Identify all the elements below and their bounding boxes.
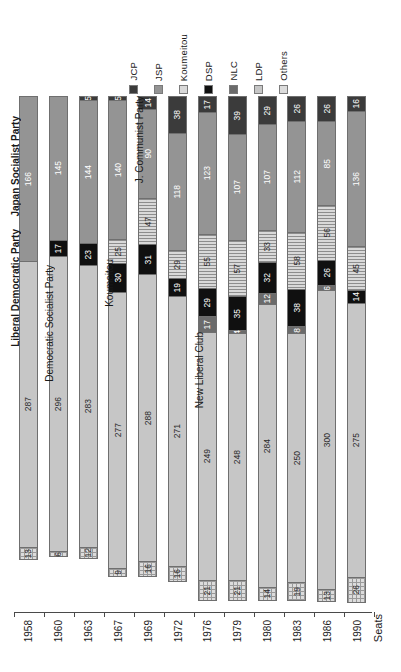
bar-segment-dsp-1983[interactable]: 38 — [287, 289, 306, 327]
year-label-1972[interactable]: 1972 — [163, 620, 193, 666]
bar-segment-dsp-1990[interactable]: 14 — [347, 290, 366, 304]
bar-segment-jsp-1972[interactable]: 118 — [168, 133, 187, 251]
bar-column-1990[interactable]: 16136451427526 — [342, 96, 372, 608]
bar-segment-koumeitou-1990[interactable]: 45 — [347, 246, 366, 291]
bar-segment-dsp-1972[interactable]: 19 — [168, 278, 187, 297]
bar-column-1979[interactable]: 391075735424821 — [223, 96, 253, 608]
bar-segment-dsp-1979[interactable]: 35 — [228, 296, 247, 331]
year-label-1960[interactable]: 1960 — [44, 620, 74, 666]
bar-segment-jsp-1963[interactable]: 144 — [79, 100, 98, 244]
legend-item-ldp[interactable]: LDP — [253, 62, 264, 94]
year-label-1958[interactable]: 1958 — [14, 620, 44, 666]
legend-item-jsp[interactable]: JSP — [153, 63, 164, 94]
bar-segment-dsp-1969[interactable]: 31 — [138, 244, 157, 275]
segment-value-label: 284 — [263, 439, 272, 453]
bar-segment-nlc-1976[interactable]: 17 — [198, 316, 217, 333]
bar-segment-jsp-1980[interactable]: 107 — [258, 124, 277, 231]
bar-segment-koumeitou-1979[interactable]: 57 — [228, 240, 247, 297]
bar-segment-jcp-1980[interactable]: 29 — [258, 96, 277, 125]
bar-segment-koumeitou-1969[interactable]: 47 — [138, 198, 157, 245]
segment-value-label: 249 — [203, 449, 212, 463]
year-label-1979[interactable]: 1979 — [223, 620, 253, 666]
segment-value-label: 16 — [173, 569, 182, 578]
bar-column-1967[interactable]: 514025302779 — [103, 96, 133, 608]
bar-segment-dsp-1960[interactable]: 17 — [49, 240, 68, 257]
bar-segment-koumeitou-1972[interactable]: 29 — [168, 250, 187, 279]
bar-segment-ldp-1979[interactable]: 248 — [228, 333, 247, 581]
bar-segment-dsp-1976[interactable]: 29 — [198, 288, 217, 317]
bar-stack-1990: 16136451427526 — [347, 96, 366, 608]
bar-segment-others-1972[interactable]: 16 — [168, 566, 187, 582]
bar-segment-jsp-1990[interactable]: 136 — [347, 111, 366, 247]
segment-value-label: 23 — [84, 250, 93, 259]
year-label-1980[interactable]: 1980 — [253, 620, 283, 666]
bar-column-1986[interactable]: 26855626630013 — [312, 96, 342, 608]
year-label-1967[interactable]: 1967 — [103, 620, 133, 666]
bar-segment-dsp-1980[interactable]: 32 — [258, 262, 277, 294]
bar-segment-dsp-1986[interactable]: 26 — [317, 260, 336, 286]
bar-column-1983[interactable]: 261125838825019 — [282, 96, 312, 608]
legend-item-nlc[interactable]: NLC — [228, 61, 239, 94]
bar-segment-ldp-1967[interactable]: 277 — [108, 292, 127, 569]
bar-column-1972[interactable]: 38118291927116 — [163, 96, 193, 608]
bar-segment-ldp-1986[interactable]: 300 — [317, 290, 336, 590]
bar-column-1980[interactable]: 2910733321228414 — [253, 96, 283, 608]
bar-segment-koumeitou-1976[interactable]: 55 — [198, 234, 217, 289]
bar-segment-jsp-1960[interactable]: 145 — [49, 96, 68, 241]
bar-segment-jcp-1990[interactable]: 16 — [347, 96, 366, 112]
bar-segment-others-1990[interactable]: 26 — [347, 577, 366, 603]
bar-segment-jsp-1976[interactable]: 123 — [198, 112, 217, 235]
segment-value-label: 107 — [233, 180, 242, 194]
bar-segment-jsp-1986[interactable]: 85 — [317, 121, 336, 206]
bar-stack-1963: 51442328312 — [79, 96, 98, 608]
legend-item-jcp[interactable]: JCP — [128, 62, 139, 94]
bar-segment-others-1980[interactable]: 14 — [258, 587, 277, 601]
year-label-1990[interactable]: 1990 — [342, 620, 372, 666]
segment-value-label: 248 — [233, 450, 242, 464]
bar-segment-ldp-1980[interactable]: 284 — [258, 304, 277, 588]
bar-segment-ldp-1983[interactable]: 250 — [287, 333, 306, 583]
bar-segment-jsp-1983[interactable]: 112 — [287, 121, 306, 233]
bar-segment-others-1983[interactable]: 19 — [287, 582, 306, 601]
bar-segment-koumeitou-1980[interactable]: 33 — [258, 230, 277, 263]
legend-item-dsp[interactable]: DSP — [203, 61, 214, 94]
year-label-1963[interactable]: 1963 — [74, 620, 104, 666]
chart-legend: JCPJSPKoumeitouDSPNLCLDPOthers — [128, 8, 328, 94]
legend-item-others[interactable]: Others — [278, 51, 289, 94]
bar-segment-jcp-1986[interactable]: 26 — [317, 96, 336, 122]
bar-segment-others-1960[interactable]: 6 — [49, 551, 68, 557]
bar-segment-others-1963[interactable]: 12 — [79, 547, 98, 559]
bar-segment-others-1986[interactable]: 13 — [317, 589, 336, 602]
bar-segment-jsp-1958[interactable]: 166 — [19, 96, 38, 262]
bar-segment-ldp-1963[interactable]: 283 — [79, 265, 98, 548]
bar-segment-jsp-1967[interactable]: 140 — [108, 100, 127, 240]
bar-segment-ldp-1969[interactable]: 288 — [138, 274, 157, 562]
axis-tick — [194, 612, 195, 617]
bar-segment-jcp-1983[interactable]: 26 — [287, 96, 306, 122]
bar-segment-others-1958[interactable]: 13 — [19, 547, 38, 560]
bar-stack-1979: 391075735424821 — [228, 96, 247, 608]
bar-segment-jsp-1979[interactable]: 107 — [228, 134, 247, 241]
bar-segment-others-1967[interactable]: 9 — [108, 568, 127, 577]
bar-segment-dsp-1963[interactable]: 23 — [79, 243, 98, 266]
segment-value-label: 45 — [352, 264, 361, 273]
bar-segment-jcp-1979[interactable]: 39 — [228, 96, 247, 135]
bar-segment-others-1976[interactable]: 21 — [198, 580, 217, 601]
year-label-1969[interactable]: 1969 — [133, 620, 163, 666]
bar-segment-koumeitou-1983[interactable]: 58 — [287, 232, 306, 290]
bar-segment-others-1969[interactable]: 16 — [138, 561, 157, 577]
year-label-1976[interactable]: 1976 — [193, 620, 223, 666]
bar-segment-others-1979[interactable]: 21 — [228, 580, 247, 601]
axis-tick — [344, 612, 345, 617]
bar-segment-jcp-1976[interactable]: 17 — [198, 96, 217, 113]
segment-value-label: 38 — [293, 303, 302, 312]
bar-segment-ldp-1958[interactable]: 287 — [19, 261, 38, 548]
year-label-1986[interactable]: 1986 — [312, 620, 342, 666]
bar-segment-ldp-1990[interactable]: 275 — [347, 303, 366, 578]
bar-segment-koumeitou-1986[interactable]: 56 — [317, 205, 336, 261]
year-label-1983[interactable]: 1983 — [282, 620, 312, 666]
bar-column-1963[interactable]: 51442328312 — [74, 96, 104, 608]
legend-item-koumeitou[interactable]: Koumeitou — [178, 34, 189, 94]
bar-segment-ldp-1972[interactable]: 271 — [168, 296, 187, 567]
bar-segment-jcp-1972[interactable]: 38 — [168, 96, 187, 134]
